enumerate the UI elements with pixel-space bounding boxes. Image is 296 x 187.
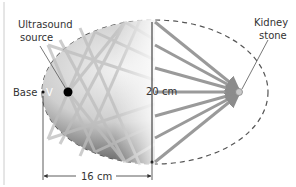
kidney-stone-label-line1: Kidney	[254, 17, 288, 28]
vertex-dot	[41, 90, 44, 93]
kidney-stone	[236, 89, 243, 96]
vertex-label: V	[46, 87, 53, 98]
ultrasound-source-label-line1: Ultrasound	[18, 19, 73, 30]
stone-leader-line	[242, 40, 268, 89]
lithotripter-diagram: Ultrasound source Kidney stone Base V 20…	[0, 0, 296, 187]
width-dimension-label: 20 cm	[146, 86, 177, 97]
ultrasound-source-dot	[64, 88, 73, 97]
ultrasound-source-label-line2: source	[20, 32, 53, 43]
length-dimension-label: 16 cm	[81, 171, 112, 182]
kidney-stone-label-line2: stone	[259, 30, 287, 41]
base-label: Base	[13, 87, 37, 98]
